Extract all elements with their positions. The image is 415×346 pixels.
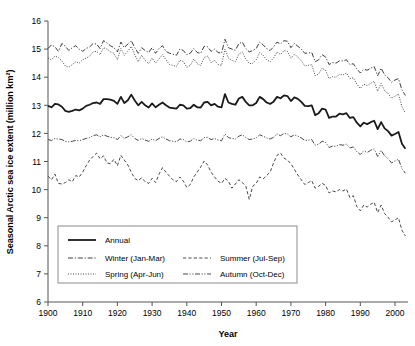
seasonal-arctic-sea-ice-extent-chart: 678910111213141516 190019101920193019401… (0, 0, 415, 346)
y-tick-label: 13 (32, 101, 42, 111)
x-tick-label: 2000 (386, 308, 405, 318)
x-tick-label: 1920 (108, 308, 127, 318)
y-tick-label: 12 (32, 129, 42, 139)
y-tick-label: 16 (32, 16, 42, 26)
chart-series-group (48, 39, 405, 236)
series-line-annual (48, 94, 405, 149)
series-line-winter (48, 39, 405, 95)
chart-figure: 678910111213141516 190019101920193019401… (0, 0, 415, 346)
y-tick-label: 11 (32, 157, 41, 167)
y-axis-title: Seasonal Arctic sea ice extent (million … (5, 70, 15, 255)
x-tick-label: 1950 (212, 308, 231, 318)
x-tick-label: 1900 (39, 308, 58, 318)
legend-label: Annual (105, 236, 130, 245)
x-tick-label: 1970 (281, 308, 300, 318)
legend-label: Spring (Apr-Jun) (105, 270, 164, 279)
y-tick-label: 15 (32, 44, 42, 54)
y-tick-label: 9 (36, 213, 41, 223)
x-tick-label: 1980 (316, 308, 335, 318)
x-tick-label: 1910 (73, 308, 92, 318)
y-tick-label: 14 (32, 72, 42, 82)
y-tick-label: 7 (36, 269, 41, 279)
series-line-summer (48, 153, 405, 236)
y-axis-ticks: 678910111213141516 (32, 16, 48, 307)
legend-label: Summer (Jul-Sep) (220, 254, 285, 263)
legend-label: Autumn (Oct-Dec) (220, 270, 285, 279)
chart-legend: AnnualWinter (Jan-Mar)Summer (Jul-Sep)Sp… (58, 226, 297, 283)
series-line-autumn (48, 133, 405, 173)
y-tick-label: 10 (32, 185, 42, 195)
y-tick-label: 8 (36, 241, 41, 251)
x-tick-label: 1990 (351, 308, 370, 318)
x-axis-title: Year (218, 329, 238, 339)
x-axis-ticks: 1900191019201930194019501960197019801990… (39, 302, 405, 318)
legend-label: Winter (Jan-Mar) (105, 254, 165, 263)
x-tick-label: 1930 (143, 308, 162, 318)
x-tick-label: 1960 (247, 308, 266, 318)
x-tick-label: 1940 (177, 308, 196, 318)
y-tick-label: 6 (36, 297, 41, 307)
